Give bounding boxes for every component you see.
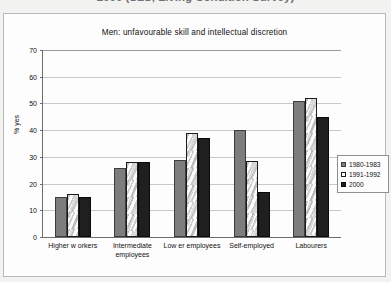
legend-label: 1991-1992 (349, 171, 381, 178)
legend-label: 2000 (349, 181, 364, 188)
legend-item[interactable]: 2000 (341, 179, 385, 189)
bar (79, 197, 91, 237)
bar (67, 194, 79, 237)
bar-group (103, 50, 163, 237)
y-tick-label: 70 (29, 47, 37, 54)
bar (55, 197, 67, 237)
legend-swatch (341, 162, 346, 167)
bar-group (162, 50, 222, 237)
y-tick-label: 40 (29, 127, 37, 134)
chart-frame: Men: unfavourable skill and intellectual… (3, 13, 386, 277)
bar-group (222, 50, 282, 237)
y-tick-label: 60 (29, 73, 37, 80)
bar-group (43, 50, 103, 237)
y-tick-label: 30 (29, 153, 37, 160)
bar (174, 160, 186, 237)
bar (126, 162, 138, 237)
x-axis-label: Self-employed (222, 241, 282, 250)
chart-legend: 1980-19831991-19922000 (337, 155, 389, 193)
legend-swatch (341, 172, 346, 177)
legend-label: 1980-1983 (349, 161, 381, 168)
bar (138, 162, 150, 237)
bar (234, 130, 246, 237)
bar (258, 192, 270, 237)
x-axis-label: Higher w orkers (43, 241, 103, 250)
x-axis-label: Low er employees (162, 241, 222, 250)
y-tick-label: 20 (29, 180, 37, 187)
x-axis-label: Intermediate employees (103, 241, 163, 259)
y-tick-mark (40, 237, 43, 238)
y-tick-label: 0 (33, 234, 37, 241)
legend-item[interactable]: 1991-1992 (341, 169, 385, 179)
figure-caption: 2000 (SLS, Living Condition Survey) (0, 0, 391, 3)
legend-swatch (341, 182, 346, 187)
figure-caption-strip: 2000 (SLS, Living Condition Survey) (0, 0, 391, 12)
y-axis-title: % yes (13, 115, 20, 134)
bar (293, 101, 305, 237)
legend-item[interactable]: 1980-1983 (341, 159, 385, 169)
chart-title: Men: unfavourable skill and intellectual… (4, 28, 385, 37)
bar (305, 98, 317, 237)
bar (114, 168, 126, 237)
bar-series-container (43, 50, 341, 237)
y-tick-label: 10 (29, 207, 37, 214)
y-tick-label: 50 (29, 100, 37, 107)
bar (186, 133, 198, 237)
plot-area: 010203040506070 Higher w orkersIntermedi… (42, 50, 341, 238)
bar (198, 138, 210, 237)
bar-group (281, 50, 341, 237)
bar (246, 161, 258, 237)
x-axis-label: Labourers (281, 241, 341, 250)
bar (317, 117, 329, 237)
